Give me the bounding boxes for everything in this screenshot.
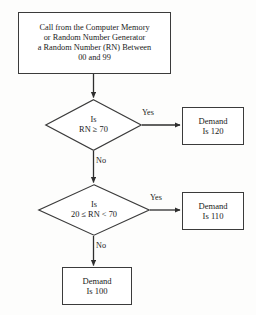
demand-120-line-2: Is 120 <box>202 126 223 136</box>
start-box-line-4: 00 and 99 <box>78 53 111 62</box>
demand-120-line-1: Demand <box>198 116 227 126</box>
decision-2-line-2: 20 ≤ RN < 70 <box>71 210 117 220</box>
start-box: Call from the Computer Memory or Random … <box>18 12 171 74</box>
decision-diamond-rn-between-20-and-70: Is 20 ≤ RN < 70 <box>38 184 150 236</box>
demand-110-line-1: Demand <box>198 201 227 211</box>
edge-label-no-1: No <box>96 156 106 165</box>
start-box-line-3: a Random Number (RN) Between <box>38 43 151 52</box>
flowchart-canvas: Call from the Computer Memory or Random … <box>0 0 256 315</box>
decision-diamond-rn-ge-70: Is RN ≥ 70 <box>45 99 142 151</box>
demand-120-box: Demand Is 120 <box>182 107 244 145</box>
demand-100-line-2: Is 100 <box>86 286 107 296</box>
decision-1-line-2: RN ≥ 70 <box>79 125 108 135</box>
edge-label-no-2: No <box>96 241 106 250</box>
start-box-line-1: Call from the Computer Memory <box>39 23 149 32</box>
edge-label-yes-2: Yes <box>150 193 162 202</box>
decision-1-line-1: Is <box>90 115 96 125</box>
demand-110-box: Demand Is 110 <box>182 192 244 230</box>
edge-label-yes-1: Yes <box>142 108 154 117</box>
demand-110-line-2: Is 110 <box>203 211 224 221</box>
demand-100-line-1: Demand <box>82 276 111 286</box>
decision-2-line-1: Is <box>91 200 97 210</box>
start-box-line-2: or Random Number Generator <box>44 33 146 42</box>
demand-100-box: Demand Is 100 <box>62 267 132 305</box>
